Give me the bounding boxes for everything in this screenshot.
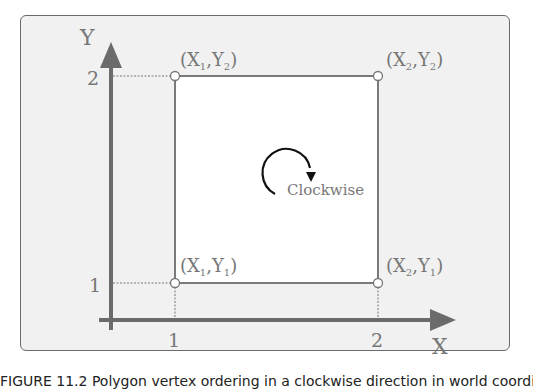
label-top-left: (X1,Y2) [180,49,237,72]
label-bottom-right: (X2,Y1) [386,255,443,278]
x-axis [99,309,456,331]
x-tick-1: 1 [168,329,180,351]
vertex-bottom-right [374,279,383,288]
x-axis-arrow-icon [430,309,456,331]
y-tick-2: 2 [87,67,99,89]
x-axis-label: X [432,334,448,359]
vertex-bottom-left [171,279,180,288]
y-axis-arrow-icon [100,42,122,68]
figure-caption: FIGURE 11.2 Polygon vertex ordering in a… [0,373,533,389]
vertex-top-left [171,72,180,81]
y-axis [100,42,122,330]
y-tick-1: 1 [89,274,101,296]
y-axis-label: Y [79,25,95,50]
label-top-right: (X2,Y2) [386,49,443,72]
vertex-top-right [374,72,383,81]
clockwise-rectangle [175,76,378,283]
clockwise-label: Clockwise [287,181,364,199]
x-tick-2: 2 [371,329,383,351]
